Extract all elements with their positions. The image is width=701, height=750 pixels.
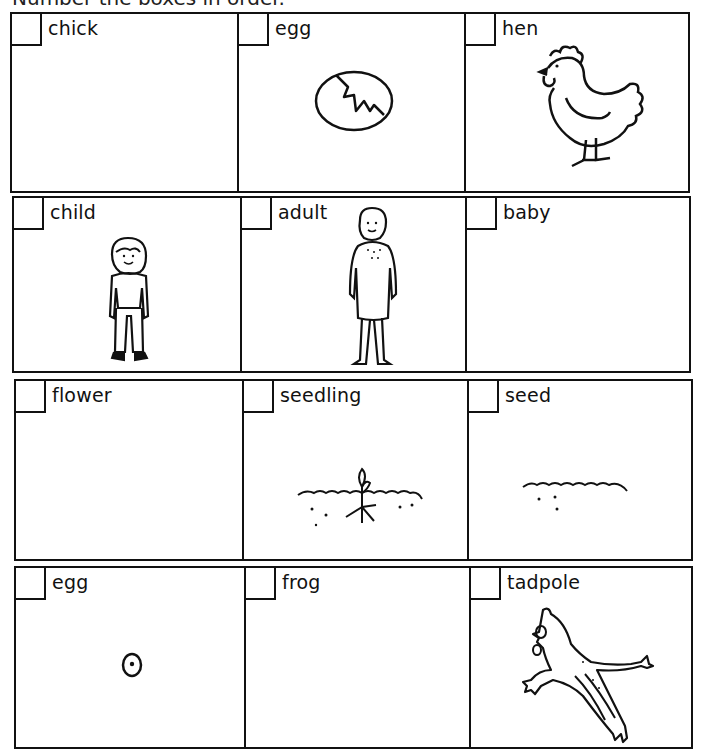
card-label: chick (48, 17, 98, 39)
frog-egg-icon (120, 652, 144, 678)
card-frog: frog (246, 568, 471, 747)
card-label: egg (275, 17, 311, 39)
number-box[interactable] (469, 381, 499, 413)
card-adult: adult (242, 198, 467, 371)
number-box[interactable] (467, 198, 497, 230)
cracked-egg-icon (314, 69, 394, 133)
jumping-frog-icon (513, 606, 663, 736)
card-label: egg (52, 571, 88, 593)
number-box[interactable] (14, 198, 44, 230)
card-label: seedling (280, 384, 362, 406)
seedling-icon (296, 467, 438, 533)
sequence-row-plant: flower seedling seed (14, 379, 693, 561)
card-hen: hen (466, 14, 687, 191)
card-seed: seed (469, 381, 690, 559)
card-tadpole: tadpole (471, 568, 690, 747)
number-box[interactable] (246, 568, 276, 600)
card-seedling: seedling (244, 381, 469, 559)
card-baby: baby (467, 198, 689, 371)
number-box[interactable] (16, 381, 46, 413)
number-box[interactable] (16, 568, 46, 600)
card-label: adult (278, 201, 327, 223)
number-box[interactable] (471, 568, 501, 600)
card-label: flower (52, 384, 112, 406)
child-icon (104, 236, 154, 364)
number-box[interactable] (242, 198, 272, 230)
sequence-row-frog: egg frog tadpole (14, 566, 693, 749)
card-label: child (50, 201, 96, 223)
card-child: child (14, 198, 242, 371)
card-label: frog (282, 571, 321, 593)
sequence-row-chicken: chick egg hen (10, 12, 690, 193)
card-chick: chick (12, 14, 239, 191)
card-label: tadpole (507, 571, 580, 593)
card-flower: flower (16, 381, 244, 559)
card-egg: egg (239, 14, 466, 191)
card-label: baby (503, 201, 551, 223)
number-box[interactable] (239, 14, 269, 46)
worksheet-instructions: Number the boxes in order. (12, 0, 285, 10)
card-label: hen (502, 17, 538, 39)
card-frog-egg: egg (16, 568, 246, 747)
number-box[interactable] (12, 14, 42, 46)
hen-icon (538, 42, 648, 167)
card-label: seed (505, 384, 551, 406)
sequence-row-human: child adult baby (12, 196, 691, 373)
seed-icon (521, 475, 637, 515)
woman-icon (344, 206, 400, 368)
number-box[interactable] (466, 14, 496, 46)
number-box[interactable] (244, 381, 274, 413)
